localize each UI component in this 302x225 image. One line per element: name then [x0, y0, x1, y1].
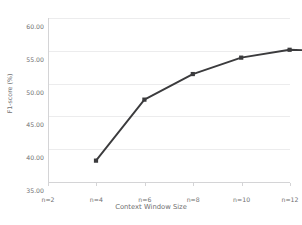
- x-axis-tick-mark: [242, 183, 243, 186]
- x-axis-tick-label: n=12: [282, 196, 299, 203]
- chart-figure: 35.0040.0045.0050.0055.0060.00 n=2n=4n=6…: [0, 0, 302, 225]
- y-axis-tick-label: 45.00: [26, 121, 44, 128]
- x-axis-tick-label: n=10: [233, 196, 250, 203]
- y-axis-tick: 35.00: [0, 178, 44, 197]
- x-axis-spine: [48, 182, 290, 183]
- data-point-marker: [94, 159, 98, 163]
- data-point-marker: [288, 48, 292, 52]
- data-point-marker: [239, 56, 243, 60]
- y-axis-tick: 40.00: [0, 145, 44, 164]
- x-axis-tick-mark: [290, 183, 291, 186]
- y-axis-spine: [48, 18, 49, 182]
- series-line: [96, 50, 302, 161]
- x-axis-tick-label: n=8: [187, 196, 200, 203]
- x-axis-tick-mark: [145, 183, 146, 186]
- x-axis-tick-mark: [193, 183, 194, 186]
- y-axis-title: F1-score (%): [6, 59, 13, 129]
- y-axis-tick-label: 50.00: [26, 89, 44, 96]
- plot-area: [48, 18, 290, 182]
- x-axis-tick-label: n=4: [90, 196, 103, 203]
- data-point-marker: [191, 72, 195, 76]
- x-axis-tick-label: n=2: [41, 196, 54, 203]
- x-axis-title: Context Window Size: [0, 203, 302, 211]
- y-axis-tick: 60.00: [0, 14, 44, 33]
- data-point-marker: [142, 98, 146, 102]
- x-axis-tick-mark: [96, 183, 97, 186]
- y-axis-tick-label: 55.00: [26, 56, 44, 63]
- line-series-layer: [48, 18, 302, 225]
- x-axis-tick-mark: [48, 183, 49, 186]
- x-axis-tick-label: n=6: [138, 196, 151, 203]
- y-axis-tick-label: 40.00: [26, 154, 44, 161]
- y-axis-tick-label: 60.00: [26, 23, 44, 30]
